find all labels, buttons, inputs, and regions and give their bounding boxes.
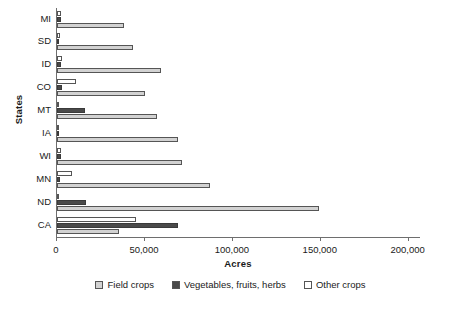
legend-label: Other crops [316,279,366,290]
bar [57,11,61,16]
y-tick-label: WI [7,151,51,161]
bar [57,85,62,90]
bar [57,206,319,211]
legend-swatch-icon [304,281,312,289]
y-tick-label: ND [7,197,51,207]
x-tick-mark [320,237,321,241]
bar [57,68,161,73]
bar-chart: States MISDIDCOMTIAWIMNNDCA 050,000100,0… [0,0,461,309]
bar [57,114,157,119]
bar [57,45,133,50]
y-tick-label: SD [7,36,51,46]
bar [57,17,61,22]
bar [57,229,119,234]
x-tick-label: 150,000 [285,244,355,255]
x-tick-label: 100,000 [197,244,267,255]
bar [57,23,124,28]
bar [57,154,61,159]
y-tick-label: MI [7,14,51,24]
y-tick-label: CA [7,220,51,230]
y-tick-label: IA [7,128,51,138]
legend-item: Field crops [95,279,153,290]
x-axis-title: Acres [56,258,420,269]
x-tick-label: 200,000 [373,244,443,255]
x-axis-line [56,237,420,238]
bar [57,91,145,96]
bar [57,79,76,84]
bar [57,160,182,165]
legend-swatch-icon [95,281,103,289]
bar [57,223,178,228]
legend-label: Field crops [107,279,153,290]
bar [57,56,62,61]
x-tick-mark [232,237,233,241]
legend-item: Vegetables, fruits, herbs [172,279,286,290]
bar [57,39,59,44]
y-tick-label: MN [7,174,51,184]
legend-item: Other crops [304,279,366,290]
bar [57,148,61,153]
bar [57,137,178,142]
bar [57,183,210,188]
bar [57,171,72,176]
bar [57,194,59,199]
bar [57,108,85,113]
legend-label: Vegetables, fruits, herbs [184,279,286,290]
bar [57,131,59,136]
bar [57,62,61,67]
bar [57,125,59,130]
x-tick-label: 50,000 [109,244,179,255]
bar [57,177,60,182]
x-tick-mark [144,237,145,241]
x-tick-label: 0 [21,244,91,255]
x-tick-mark [56,237,57,241]
y-tick-label: CO [7,82,51,92]
x-tick-mark [408,237,409,241]
bar [57,217,136,222]
bar [57,200,86,205]
y-tick-label: ID [7,59,51,69]
bar [57,33,60,38]
legend-swatch-icon [172,281,180,289]
plot-area: MISDIDCOMTIAWIMNNDCA 050,000100,000150,0… [56,8,420,237]
chart-legend: Field cropsVegetables, fruits, herbsOthe… [0,279,461,290]
y-tick-label: MT [7,105,51,115]
bar [57,102,59,107]
